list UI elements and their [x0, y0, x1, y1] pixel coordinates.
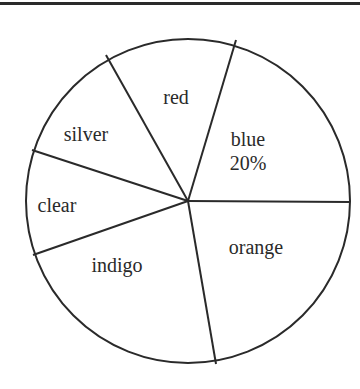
pie-chart: red blue 20% silver clear indigo orange [0, 0, 360, 389]
slice-label-silver: silver [64, 123, 109, 145]
slice-label-blue-percent: 20% [230, 152, 267, 174]
slice-label-red: red [163, 86, 189, 108]
slice-label-indigo: indigo [91, 254, 142, 277]
divider-orange-blue [188, 201, 350, 202]
slice-label-blue: blue [231, 128, 266, 150]
slice-label-clear: clear [38, 194, 77, 216]
slice-label-orange: orange [229, 236, 284, 259]
